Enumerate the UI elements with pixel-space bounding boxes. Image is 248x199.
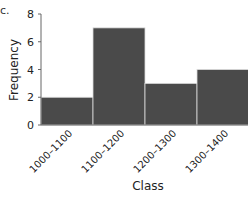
x-tick-label: 1000–1100: [27, 128, 74, 175]
y-ticks: 02468: [27, 8, 41, 132]
x-ticks: 1000–11001100–12001200–13001300–1400: [27, 128, 230, 175]
x-tick-label: 1100–1200: [79, 128, 126, 175]
y-axis-label: Frequency: [7, 39, 21, 101]
histogram-chart: 02468 1000–11001100–12001200–13001300–14…: [0, 0, 248, 199]
y-tick-label: 6: [27, 36, 34, 49]
y-tick-label: 0: [27, 119, 34, 132]
y-tick-label: 2: [27, 91, 34, 104]
y-tick-label: 8: [27, 8, 34, 21]
y-tick-label: 4: [27, 64, 34, 77]
bar-1: [93, 28, 145, 125]
bar-3: [197, 70, 248, 126]
x-tick-label: 1200–1300: [131, 128, 178, 175]
bar-0: [41, 97, 93, 125]
x-tick-label: 1300–1400: [183, 128, 230, 175]
x-axis-label: Class: [132, 179, 164, 193]
bar-2: [145, 83, 197, 125]
bars: [41, 28, 248, 125]
